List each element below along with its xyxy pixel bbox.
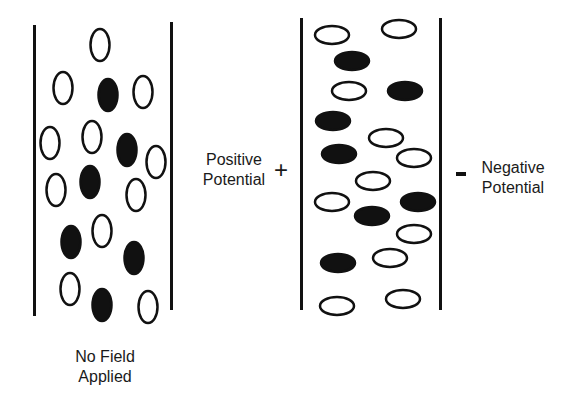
filled-particle-icon [401, 193, 435, 211]
filled-particle-icon [388, 82, 422, 100]
hollow-particle-icon [83, 121, 102, 153]
particles-layer [0, 0, 570, 402]
filled-particle-icon [335, 52, 369, 70]
hollow-particle-icon [61, 273, 80, 305]
hollow-particle-icon [356, 172, 390, 190]
hollow-particle-icon [315, 193, 349, 211]
hollow-particle-icon [47, 174, 66, 206]
right-panel-particles [315, 20, 435, 315]
hollow-particle-icon [54, 72, 73, 104]
hollow-particle-icon [369, 129, 403, 147]
left-panel-particles [41, 29, 166, 323]
filled-particle-icon [316, 112, 350, 130]
filled-particle-icon [125, 242, 144, 274]
filled-particle-icon [322, 145, 356, 163]
hollow-particle-icon [41, 127, 60, 159]
hollow-particle-icon [93, 215, 112, 247]
hollow-particle-icon [332, 82, 366, 100]
hollow-particle-icon [397, 225, 431, 243]
hollow-particle-icon [382, 20, 416, 38]
hollow-particle-icon [397, 149, 431, 167]
filled-particle-icon [93, 289, 112, 321]
hollow-particle-icon [91, 29, 110, 61]
filled-particle-icon [99, 79, 118, 111]
hollow-particle-icon [315, 26, 349, 44]
filled-particle-icon [62, 226, 81, 258]
filled-particle-icon [81, 166, 100, 198]
hollow-particle-icon [386, 290, 420, 308]
hollow-particle-icon [320, 297, 354, 315]
hollow-particle-icon [373, 249, 407, 267]
hollow-particle-icon [147, 146, 166, 178]
hollow-particle-icon [127, 179, 146, 211]
hollow-particle-icon [134, 76, 153, 108]
filled-particle-icon [355, 207, 389, 225]
hollow-particle-icon [139, 291, 158, 323]
filled-particle-icon [118, 134, 137, 166]
filled-particle-icon [321, 254, 355, 272]
